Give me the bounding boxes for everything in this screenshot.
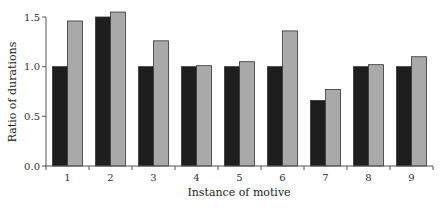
bar-dark-3 — [139, 67, 154, 166]
y-tick-label: 1.0 — [24, 61, 40, 72]
bars-group — [53, 12, 427, 166]
bar-dark-6 — [268, 67, 283, 166]
bar-dark-8 — [354, 67, 369, 166]
y-tick-label: 0.5 — [24, 111, 40, 122]
y-tick-label: 1.5 — [24, 12, 40, 23]
bar-grey-2 — [111, 12, 126, 166]
bar-grey-9 — [412, 57, 427, 166]
x-tick-label: 8 — [365, 172, 371, 183]
bar-dark-9 — [397, 67, 412, 166]
bar-grey-8 — [369, 65, 384, 166]
x-axis-title: Instance of motive — [187, 186, 290, 199]
bar-dark-2 — [96, 17, 111, 166]
bar-dark-1 — [53, 67, 68, 166]
x-tick-label: 1 — [64, 172, 70, 183]
bar-dark-4 — [182, 67, 197, 166]
bar-grey-3 — [154, 41, 169, 166]
bar-grey-7 — [326, 90, 341, 166]
bar-grey-5 — [240, 62, 255, 166]
x-ticks: 123456789 — [46, 166, 433, 183]
x-tick-label: 9 — [408, 172, 414, 183]
y-tick-label: 0.0 — [24, 161, 40, 172]
y-axis-title: Ratio of durations — [6, 41, 19, 142]
bar-dark-7 — [311, 100, 326, 166]
bar-grey-6 — [283, 31, 298, 166]
bar-chart: 0.00.51.01.5 123456789 Ratio of duration… — [0, 0, 441, 208]
x-tick-label: 2 — [107, 172, 113, 183]
x-tick-label: 6 — [279, 172, 285, 183]
bar-grey-4 — [197, 66, 212, 166]
x-tick-label: 5 — [236, 172, 242, 183]
y-ticks: 0.00.51.01.5 — [24, 12, 46, 172]
x-tick-label: 3 — [150, 172, 156, 183]
x-tick-label: 7 — [322, 172, 328, 183]
bar-grey-1 — [68, 21, 83, 166]
x-tick-label: 4 — [193, 172, 199, 183]
bar-dark-5 — [225, 67, 240, 166]
